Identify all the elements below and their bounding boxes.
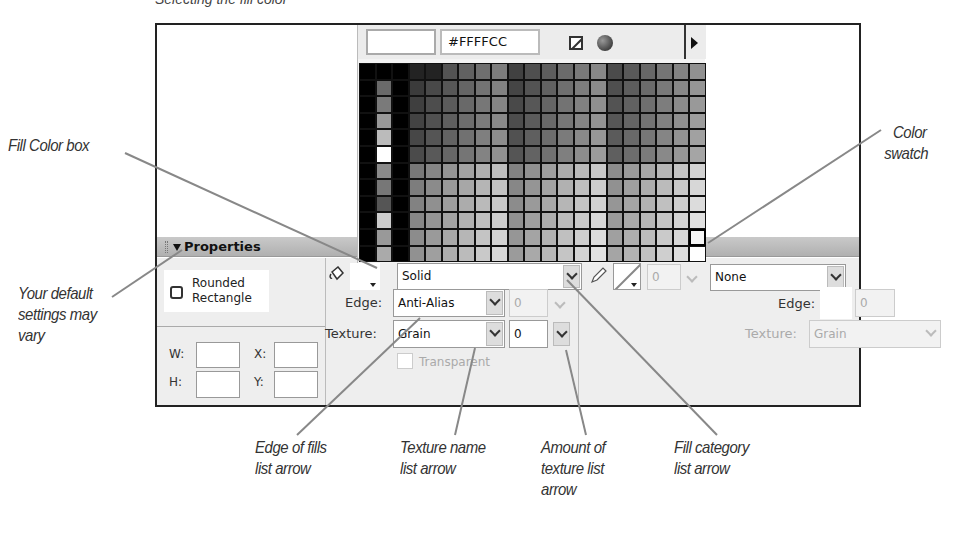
color-swatch[interactable]: [442, 196, 459, 213]
y-field[interactable]: [274, 371, 318, 398]
color-swatch[interactable]: [376, 212, 393, 229]
color-swatch[interactable]: [590, 63, 607, 80]
color-swatch[interactable]: [656, 63, 673, 80]
grip-icon[interactable]: [165, 241, 168, 253]
color-swatch[interactable]: [442, 63, 459, 80]
color-swatch[interactable]: [475, 113, 492, 130]
color-swatch[interactable]: [458, 229, 475, 246]
color-swatch[interactable]: [475, 163, 492, 180]
color-swatch[interactable]: [508, 212, 525, 229]
color-swatch[interactable]: [656, 179, 673, 196]
color-swatch[interactable]: [557, 129, 574, 146]
color-swatch[interactable]: [541, 212, 558, 229]
color-swatch[interactable]: [392, 113, 409, 130]
color-swatch[interactable]: [491, 129, 508, 146]
color-swatch[interactable]: [623, 146, 640, 163]
color-swatch[interactable]: [359, 80, 376, 97]
color-swatch[interactable]: [491, 96, 508, 113]
selected-color-swatch[interactable]: [689, 229, 706, 246]
color-swatch[interactable]: [392, 196, 409, 213]
color-swatch[interactable]: [607, 146, 624, 163]
color-swatch[interactable]: [475, 212, 492, 229]
color-swatch[interactable]: [425, 96, 442, 113]
color-swatch[interactable]: [425, 212, 442, 229]
color-swatch[interactable]: [607, 113, 624, 130]
color-swatch[interactable]: [623, 212, 640, 229]
color-swatch[interactable]: [557, 246, 574, 263]
color-swatch[interactable]: [590, 129, 607, 146]
color-swatch[interactable]: [508, 246, 525, 263]
color-swatch[interactable]: [574, 63, 591, 80]
color-swatch[interactable]: [640, 212, 657, 229]
color-swatch[interactable]: [689, 129, 706, 146]
color-swatch[interactable]: [409, 246, 426, 263]
color-swatch[interactable]: [425, 63, 442, 80]
color-swatch[interactable]: [623, 246, 640, 263]
color-swatch[interactable]: [425, 246, 442, 263]
color-swatch[interactable]: [425, 80, 442, 97]
color-swatch[interactable]: [673, 246, 690, 263]
color-swatch[interactable]: [541, 129, 558, 146]
color-swatch[interactable]: [689, 212, 706, 229]
color-swatch[interactable]: [541, 196, 558, 213]
color-swatch[interactable]: [359, 96, 376, 113]
color-swatch[interactable]: [376, 196, 393, 213]
color-swatch[interactable]: [458, 96, 475, 113]
color-swatch[interactable]: [409, 212, 426, 229]
color-swatch[interactable]: [442, 179, 459, 196]
color-swatch[interactable]: [574, 146, 591, 163]
color-swatch[interactable]: [359, 229, 376, 246]
color-swatch[interactable]: [392, 96, 409, 113]
color-swatch[interactable]: [442, 246, 459, 263]
color-swatch[interactable]: [524, 113, 541, 130]
color-swatch[interactable]: [623, 80, 640, 97]
color-swatch[interactable]: [392, 163, 409, 180]
color-swatch[interactable]: [508, 163, 525, 180]
color-swatch[interactable]: [442, 146, 459, 163]
color-swatch[interactable]: [623, 163, 640, 180]
color-swatch[interactable]: [607, 179, 624, 196]
color-swatch[interactable]: [607, 246, 624, 263]
color-swatch[interactable]: [409, 63, 426, 80]
color-swatch[interactable]: [689, 163, 706, 180]
width-field[interactable]: [196, 342, 240, 368]
color-swatch[interactable]: [673, 63, 690, 80]
color-swatch[interactable]: [557, 63, 574, 80]
color-swatch[interactable]: [673, 80, 690, 97]
color-swatch[interactable]: [392, 63, 409, 80]
color-swatch[interactable]: [640, 146, 657, 163]
color-swatch[interactable]: [425, 196, 442, 213]
color-swatch[interactable]: [409, 96, 426, 113]
color-swatch[interactable]: [689, 113, 706, 130]
color-swatch[interactable]: [656, 196, 673, 213]
color-swatch[interactable]: [640, 96, 657, 113]
color-swatch[interactable]: [376, 146, 393, 163]
color-swatch[interactable]: [491, 246, 508, 263]
color-swatch[interactable]: [524, 146, 541, 163]
color-swatch[interactable]: [409, 146, 426, 163]
color-swatch[interactable]: [359, 196, 376, 213]
color-swatch[interactable]: [574, 163, 591, 180]
color-swatch[interactable]: [541, 63, 558, 80]
color-swatch[interactable]: [491, 179, 508, 196]
color-swatch[interactable]: [557, 163, 574, 180]
collapse-triangle-icon[interactable]: [173, 244, 181, 251]
fill-category-list-arrow[interactable]: [563, 265, 580, 288]
color-swatch[interactable]: [673, 113, 690, 130]
color-swatch[interactable]: [689, 80, 706, 97]
color-swatch[interactable]: [656, 80, 673, 97]
color-swatch[interactable]: [590, 196, 607, 213]
color-swatch[interactable]: [475, 96, 492, 113]
color-swatch[interactable]: [541, 80, 558, 97]
color-swatch[interactable]: [640, 229, 657, 246]
color-swatch[interactable]: [673, 146, 690, 163]
color-swatch[interactable]: [409, 113, 426, 130]
color-swatch[interactable]: [458, 129, 475, 146]
color-swatch[interactable]: [656, 163, 673, 180]
color-swatch[interactable]: [442, 229, 459, 246]
color-swatch[interactable]: [623, 63, 640, 80]
color-swatch[interactable]: [409, 229, 426, 246]
color-swatch[interactable]: [607, 96, 624, 113]
color-swatch[interactable]: [541, 179, 558, 196]
color-swatch[interactable]: [590, 113, 607, 130]
